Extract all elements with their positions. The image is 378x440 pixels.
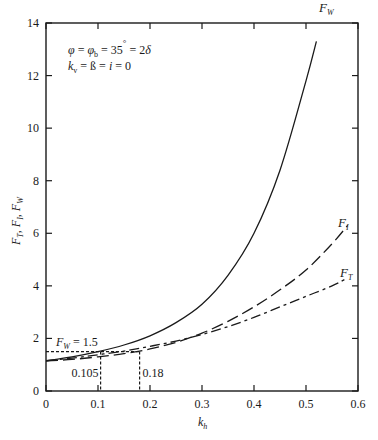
x-0.18-label: 0.18 bbox=[143, 366, 164, 380]
x-axis-label: kh bbox=[198, 415, 207, 431]
x-tick-label: 0.6 bbox=[351, 397, 366, 411]
x-0.105-label: 0.105 bbox=[72, 366, 99, 380]
y-tick-label: 0 bbox=[33, 384, 39, 398]
y-tick-label: 8 bbox=[33, 174, 39, 188]
x-tick-label: 0.1 bbox=[91, 397, 106, 411]
y-tick-label: 14 bbox=[27, 16, 39, 30]
x-tick-label: 0.5 bbox=[299, 397, 314, 411]
y-tick-label: 4 bbox=[33, 279, 39, 293]
series-line-f-w bbox=[46, 41, 316, 360]
x-tick-label: 0.2 bbox=[143, 397, 158, 411]
fi-end-label: FI bbox=[337, 215, 349, 232]
y-tick-label: 2 bbox=[33, 331, 39, 345]
ft-end-label: FT bbox=[339, 265, 353, 282]
fw-equals-label: FW = 1.5 bbox=[55, 335, 98, 351]
fw-end-label: FW bbox=[318, 0, 335, 17]
x-tick-label: 0.4 bbox=[247, 397, 262, 411]
parameter-line-1: φ = φb = 35° = 2δ bbox=[68, 38, 151, 59]
parameter-line-2: kv = ß = i = 0 bbox=[68, 59, 131, 75]
y-tick-label: 12 bbox=[27, 69, 39, 83]
chart-plot: 00.10.20.30.40.50.602468101214khFT, FI, … bbox=[0, 0, 378, 440]
x-tick-label: 0.3 bbox=[195, 397, 210, 411]
y-tick-label: 10 bbox=[27, 121, 39, 135]
y-axis-label: FT, FI, FW bbox=[9, 196, 25, 246]
x-tick-label: 0 bbox=[43, 397, 49, 411]
y-tick-label: 6 bbox=[33, 226, 39, 240]
